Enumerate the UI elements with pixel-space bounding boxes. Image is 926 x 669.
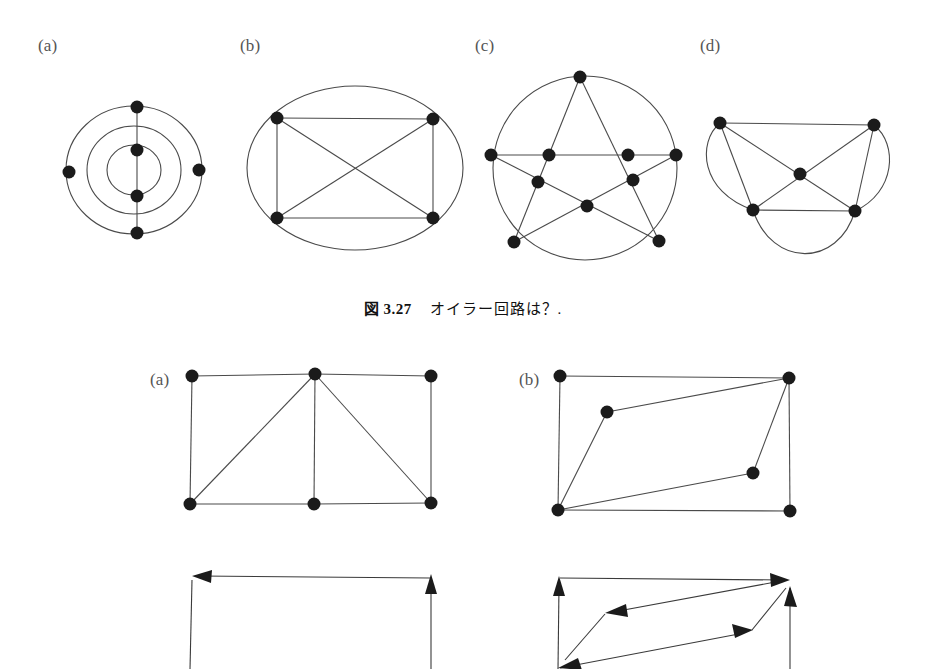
arrow-right-icon: [732, 624, 753, 638]
arrow-left-icon: [605, 604, 628, 617]
arrow-up-icon: [784, 586, 797, 607]
arrow-up-icon: [553, 576, 565, 596]
digraph-bottom-b-arrowheads: [553, 573, 797, 669]
digraph-bottom-b-edges: [558, 578, 790, 669]
arrow-down-left-icon: [558, 658, 582, 669]
digraph-bottom-b: [0, 0, 926, 669]
figure-page: (a) (b) (c) (d): [0, 0, 926, 669]
arrow-right-icon: [770, 573, 790, 587]
